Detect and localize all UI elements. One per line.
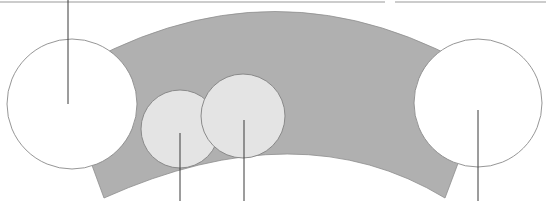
circle-small-right	[201, 74, 285, 158]
arch-diagram	[0, 0, 546, 201]
circle-large-left	[7, 39, 137, 169]
diagram-canvas	[0, 0, 546, 201]
